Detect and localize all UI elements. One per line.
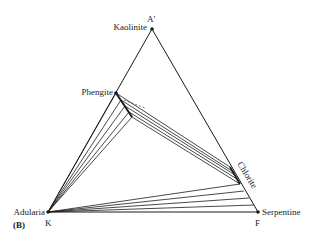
- panel-label: (B): [13, 220, 25, 230]
- tie-line: [48, 198, 249, 212]
- tie-line: [125, 106, 235, 175]
- tie-line: [48, 112, 129, 212]
- k-label: K: [45, 218, 52, 228]
- phengite-solid-solution: [116, 93, 132, 117]
- tie-line: [48, 100, 121, 212]
- a-prime-label: A′: [147, 14, 155, 24]
- ternary-diagram: Kaolinite A′ Phengite Chlorite Adularia …: [0, 0, 315, 242]
- tie-lines-adularia-chlorite: [48, 184, 254, 212]
- tie-line: [48, 184, 240, 212]
- tie-lines-adularia-phengite: [48, 93, 132, 212]
- tie-line: [116, 93, 230, 167]
- phengite-point: [114, 91, 118, 95]
- tie-line: [129, 112, 237, 179]
- tie-lines-phengite-chlorite: [116, 93, 240, 184]
- chlorite-label: Chlorite: [235, 160, 259, 190]
- adularia-label: Adularia: [14, 207, 46, 217]
- phengite-label: Phengite: [82, 87, 114, 97]
- tie-line: [48, 117, 132, 212]
- tie-line: [132, 117, 240, 184]
- vertex-f: [256, 210, 260, 214]
- vertex-k: [46, 210, 50, 214]
- tie-line: [48, 93, 116, 212]
- kaolinite-label: Kaolinite: [114, 22, 148, 32]
- tie-line: [121, 100, 232, 171]
- vertex-a-prime: [150, 27, 154, 31]
- tie-line: [48, 106, 125, 212]
- f-label: F: [255, 218, 260, 228]
- serpentine-label: Serpentine: [262, 207, 301, 217]
